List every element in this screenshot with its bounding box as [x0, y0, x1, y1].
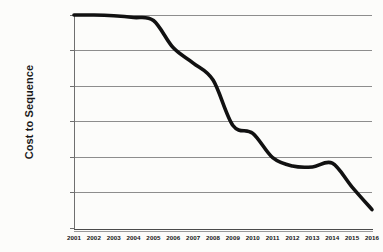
cost-to-sequence-chart: Cost to Sequence $100,000,000 $10,000,00… [0, 0, 383, 252]
data-curve-layer [0, 0, 383, 252]
series-line-cost-to-sequence [74, 15, 372, 210]
